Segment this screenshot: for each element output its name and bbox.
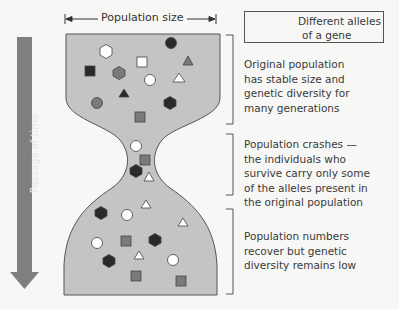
legend-text-line1: Different alleles: [298, 14, 381, 28]
legend-text-line2: of a gene: [302, 28, 351, 42]
population-size-label: Population size: [98, 11, 187, 24]
stage-note-original: Original population has stable size and …: [244, 57, 349, 115]
note-line: of the alleles present in: [244, 181, 370, 196]
note-line: Original population: [244, 57, 349, 72]
stage-note-recovery: Population numbers recover but genetic d…: [244, 229, 356, 273]
note-line: the original population: [244, 195, 370, 210]
note-line: recover but genetic: [244, 244, 356, 259]
time-axis-label: Passage of time: [29, 114, 40, 194]
note-line: diversity remains low: [244, 258, 356, 273]
note-line: survive carry only some: [244, 166, 370, 181]
note-line: the individuals who: [244, 152, 370, 167]
note-line: many generations: [244, 101, 349, 116]
note-line: genetic diversity for: [244, 86, 349, 101]
note-line: has stable size and: [244, 72, 349, 87]
note-line: Population numbers: [244, 229, 356, 244]
stage-brackets: [226, 35, 233, 294]
note-line: Population crashes —: [244, 137, 370, 152]
stage-note-crash: Population crashes — the individuals who…: [244, 137, 370, 210]
